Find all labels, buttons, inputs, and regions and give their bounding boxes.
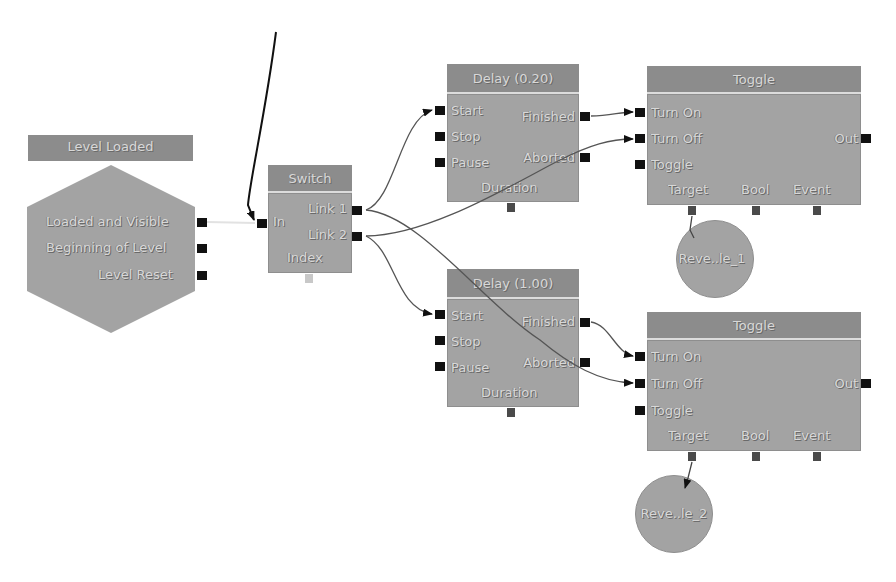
port-delay2-finished[interactable] xyxy=(580,318,590,327)
var-label-event: Event xyxy=(793,428,830,444)
port-delay2-aborted[interactable] xyxy=(580,358,590,367)
delay-1-title-text: Delay (0.20) xyxy=(473,71,554,87)
port-delay2-duration[interactable] xyxy=(507,408,515,417)
input-label-in: In xyxy=(273,214,285,230)
output-label-loaded-and-visible: Loaded and Visible xyxy=(46,214,169,230)
toggle-node-2[interactable]: Toggle Turn On Turn Off Toggle Out Targe… xyxy=(647,312,861,451)
input-label-start: Start xyxy=(451,308,483,324)
port-toggle2-target[interactable] xyxy=(688,452,696,461)
var-label-target: Target xyxy=(668,428,708,444)
port-delay2-start[interactable] xyxy=(435,310,445,319)
output-label-aborted: Aborted xyxy=(523,150,575,166)
input-label-toggle: Toggle xyxy=(651,157,693,173)
port-toggle1-toggle[interactable] xyxy=(635,160,645,169)
output-label-level-reset: Level Reset xyxy=(98,267,173,283)
output-label-aborted: Aborted xyxy=(523,355,575,371)
port-toggle2-turn-off[interactable] xyxy=(635,379,645,388)
port-delay2-pause[interactable] xyxy=(435,362,445,371)
var-label-target: Target xyxy=(668,182,708,198)
output-label-link-2: Link 2 xyxy=(308,227,347,243)
output-label-finished: Finished xyxy=(522,109,575,125)
input-label-start: Start xyxy=(451,103,483,119)
delay-node-2-body: Start Stop Pause Finished Aborted Durati… xyxy=(447,299,579,407)
switch-node[interactable]: Switch In Link 1 Link 2 Index xyxy=(268,165,352,273)
switch-title-text: Switch xyxy=(289,171,332,187)
port-toggle1-target[interactable] xyxy=(688,206,696,215)
variable-2-label: Reve..le_2 xyxy=(641,506,708,522)
port-delay2-stop[interactable] xyxy=(435,336,445,345)
port-delay1-duration[interactable] xyxy=(507,203,515,212)
kismet-canvas[interactable]: Level Loaded Loaded and Visible Beginnin… xyxy=(0,0,896,582)
port-switch-link-2[interactable] xyxy=(352,232,362,241)
port-delay1-aborted[interactable] xyxy=(580,153,590,162)
input-label-turn-on: Turn On xyxy=(651,105,701,121)
wire-delay2-finished-to-toggle2-turnon xyxy=(591,322,633,356)
variable-node-1[interactable]: Reve..le_1 xyxy=(676,220,754,298)
port-toggle1-turn-off[interactable] xyxy=(635,134,645,143)
port-switch-link-1[interactable] xyxy=(352,206,362,215)
switch-node-body: In Link 1 Link 2 Index xyxy=(268,193,352,273)
port-delay1-finished[interactable] xyxy=(580,112,590,121)
toggle-node-1[interactable]: Toggle Turn On Turn Off Toggle Out Targe… xyxy=(647,66,861,205)
wire-link2-to-delay2-start xyxy=(366,236,432,314)
switch-node-title: Switch xyxy=(268,165,352,193)
input-label-turn-on: Turn On xyxy=(651,349,701,365)
var-label-index: Index xyxy=(287,250,323,266)
port-switch-index[interactable] xyxy=(305,274,313,283)
input-label-pause: Pause xyxy=(451,360,489,376)
toggle-node-2-body: Turn On Turn Off Toggle Out Target Bool … xyxy=(647,340,861,451)
delay-node-2[interactable]: Delay (1.00) Start Stop Pause Finished A… xyxy=(447,269,579,407)
output-label-link-1: Link 1 xyxy=(308,201,347,217)
port-delay1-start[interactable] xyxy=(435,106,445,115)
port-toggle2-bool[interactable] xyxy=(752,452,760,461)
port-toggle1-bool[interactable] xyxy=(752,206,760,215)
port-beginning-of-level[interactable] xyxy=(197,244,207,253)
var-label-duration: Duration xyxy=(481,180,537,196)
event-level-loaded-title[interactable]: Level Loaded xyxy=(28,135,193,161)
delay-node-2-title: Delay (1.00) xyxy=(447,269,579,299)
var-label-bool: Bool xyxy=(741,428,769,444)
port-toggle1-turn-on[interactable] xyxy=(635,108,645,117)
port-toggle2-event[interactable] xyxy=(813,452,821,461)
input-label-turn-off: Turn Off xyxy=(651,131,702,147)
wire-delay1-finished-to-toggle1-turnon xyxy=(591,112,633,116)
input-label-turn-off: Turn Off xyxy=(651,376,702,392)
output-label-beginning-of-level: Beginning of Level xyxy=(46,240,166,256)
var-label-event: Event xyxy=(793,182,830,198)
port-toggle2-out[interactable] xyxy=(861,379,871,388)
toggle-node-2-title: Toggle xyxy=(647,312,861,340)
port-switch-in[interactable] xyxy=(257,219,267,228)
input-label-stop: Stop xyxy=(451,334,481,350)
delay-node-1[interactable]: Delay (0.20) Start Stop Pause Finished A… xyxy=(447,64,579,202)
port-toggle2-turn-on[interactable] xyxy=(635,352,645,361)
port-delay1-pause[interactable] xyxy=(435,158,445,167)
port-toggle1-event[interactable] xyxy=(813,206,821,215)
variable-node-2[interactable]: Reve..le_2 xyxy=(635,475,713,553)
input-label-toggle: Toggle xyxy=(651,403,693,419)
port-toggle2-toggle[interactable] xyxy=(635,406,645,415)
toggle-node-1-body: Turn On Turn Off Toggle Out Target Bool … xyxy=(647,94,861,205)
output-label-finished: Finished xyxy=(522,314,575,330)
input-label-stop: Stop xyxy=(451,129,481,145)
port-loaded-and-visible[interactable] xyxy=(197,218,207,227)
toggle-node-1-title: Toggle xyxy=(647,66,861,94)
variable-1-label: Reve..le_1 xyxy=(679,251,746,267)
delay-2-title-text: Delay (1.00) xyxy=(473,276,554,292)
toggle-2-title-text: Toggle xyxy=(733,318,775,334)
toggle-1-title-text: Toggle xyxy=(733,72,775,88)
wire-link1-to-delay1-start xyxy=(366,110,432,210)
delay-node-1-body: Start Stop Pause Finished Aborted Durati… xyxy=(447,94,579,202)
event-title-text: Level Loaded xyxy=(68,135,154,159)
port-delay1-stop[interactable] xyxy=(435,132,445,141)
var-label-bool: Bool xyxy=(741,182,769,198)
input-label-pause: Pause xyxy=(451,155,489,171)
port-toggle1-out[interactable] xyxy=(861,134,871,143)
output-label-out: Out xyxy=(834,376,858,392)
output-label-out: Out xyxy=(834,131,858,147)
var-label-duration: Duration xyxy=(481,385,537,401)
wire-loaded-to-in xyxy=(207,222,255,223)
delay-node-1-title: Delay (0.20) xyxy=(447,64,579,94)
port-level-reset[interactable] xyxy=(197,271,207,280)
